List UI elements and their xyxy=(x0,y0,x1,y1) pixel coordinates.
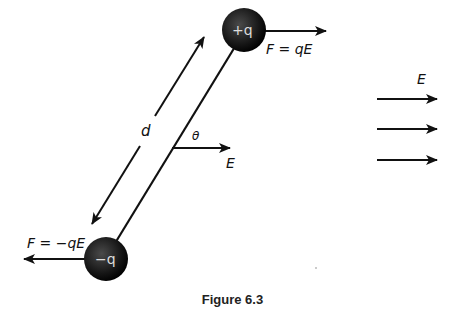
dipole-rod xyxy=(106,32,244,258)
negative-charge-label: −q xyxy=(95,252,116,266)
field-legend-label: E xyxy=(417,72,426,86)
local-field-label: E xyxy=(226,156,235,170)
separation-label: d xyxy=(141,124,151,139)
separation-arrow-upper xyxy=(155,37,204,116)
positive-charge-label: +q xyxy=(232,23,253,37)
force-negative-label: F = −qE xyxy=(27,236,85,250)
stray-dot xyxy=(315,267,317,269)
figure-caption: Figure 6.3 xyxy=(0,292,465,307)
force-positive-label: F = qE xyxy=(266,42,312,56)
angle-label: θ xyxy=(192,130,199,142)
